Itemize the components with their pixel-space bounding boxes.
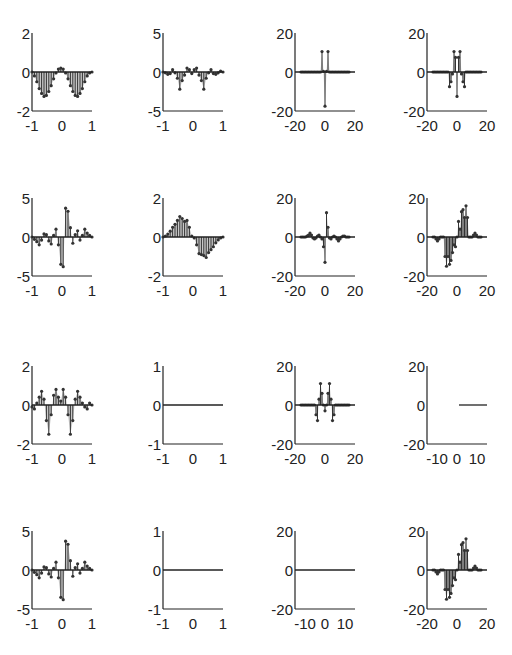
stem-marker — [451, 72, 454, 75]
x-tick-label: -20 — [416, 117, 438, 134]
subplot-r1c3: -20020-20020 — [271, 25, 363, 134]
subplot-r4c3: -20020-10010 — [271, 523, 355, 632]
x-tick-label: -10 — [426, 450, 448, 467]
stem-marker — [57, 243, 60, 246]
stem-marker — [40, 572, 43, 575]
stem-marker — [454, 245, 457, 248]
stem-marker — [448, 263, 451, 266]
y-tick-label: 5 — [22, 523, 30, 540]
stem-marker — [76, 95, 79, 98]
y-tick-label: 0 — [22, 562, 30, 579]
stem-marker — [50, 84, 53, 87]
stem-marker — [86, 565, 89, 568]
stem-marker — [35, 80, 38, 83]
stem-marker — [449, 80, 452, 83]
stem-marker — [71, 575, 74, 578]
stem-marker — [47, 239, 50, 242]
stem-marker — [33, 407, 36, 410]
stem-marker — [45, 419, 48, 422]
stem-marker — [326, 50, 329, 53]
y-tick-label: 0 — [153, 397, 161, 414]
stem-marker — [86, 74, 89, 77]
subplot-r4c2: -101-101 — [148, 523, 228, 632]
subplot-r2c3: -20020-20020 — [271, 190, 363, 299]
stem-marker — [86, 407, 89, 410]
stem-marker — [33, 74, 36, 77]
stem-marker — [166, 232, 169, 235]
x-tick-label: 1 — [88, 282, 96, 299]
stem-marker — [45, 94, 48, 97]
y-tick-label: 20 — [276, 358, 293, 375]
stem-marker — [461, 208, 464, 211]
y-tick-label: 20 — [408, 358, 425, 375]
stem-marker — [86, 232, 89, 235]
stem-marker — [40, 390, 43, 393]
x-tick-label: 1 — [219, 615, 227, 632]
stem-fill — [32, 389, 92, 434]
stem-marker — [66, 77, 69, 80]
stem-marker — [461, 541, 464, 544]
stem-marker — [54, 561, 57, 564]
stem-marker — [64, 540, 67, 543]
y-tick-label: 0 — [22, 64, 30, 81]
subplot-r3c2: -101-101 — [148, 358, 228, 467]
x-tick-label: 1 — [88, 450, 96, 467]
stem-marker — [66, 210, 69, 213]
x-tick-label: 1 — [88, 117, 96, 134]
stem-marker — [71, 90, 74, 93]
stem-marker — [463, 85, 466, 88]
stem-marker — [35, 401, 38, 404]
stem-marker — [320, 50, 323, 53]
stem-marker — [38, 396, 41, 399]
y-tick-label: 20 — [408, 190, 425, 207]
stem-marker — [331, 419, 334, 422]
y-tick-label: 0 — [285, 64, 293, 81]
stem-marker — [62, 265, 65, 268]
stem-marker — [323, 105, 326, 108]
y-tick-label: 0 — [22, 229, 30, 246]
stem-fill — [301, 384, 349, 421]
x-tick-label: -1 — [156, 117, 169, 134]
stem-marker — [212, 245, 215, 248]
stem-marker — [69, 84, 72, 87]
stem-marker — [40, 239, 43, 242]
x-tick-label: 0 — [189, 117, 197, 134]
stem-marker — [178, 88, 181, 91]
y-tick-label: 0 — [417, 562, 425, 579]
stem-marker — [181, 217, 184, 220]
stem-marker — [209, 248, 212, 251]
x-tick-label: 0 — [321, 450, 329, 467]
stem-marker — [57, 396, 60, 399]
stem-marker — [38, 576, 41, 579]
x-tick-label: 20 — [347, 450, 364, 467]
y-tick-label: 20 — [276, 190, 293, 207]
x-tick-label: -1 — [25, 117, 38, 134]
stem-marker — [185, 219, 188, 222]
stem-marker — [202, 88, 205, 91]
y-tick-label: 0 — [22, 397, 30, 414]
stem-marker — [457, 553, 460, 556]
stem-marker — [74, 233, 77, 236]
stem-marker — [35, 240, 38, 243]
x-tick-label: 0 — [453, 282, 461, 299]
stem-marker — [197, 74, 200, 77]
stem-marker — [57, 576, 60, 579]
stem-marker — [64, 396, 67, 399]
x-tick-label: -1 — [156, 450, 169, 467]
x-tick-label: 20 — [479, 615, 496, 632]
stem-marker — [200, 79, 203, 82]
stem-marker — [466, 216, 469, 219]
x-tick-label: -1 — [25, 282, 38, 299]
stem-marker — [66, 413, 69, 416]
stem-marker — [173, 223, 176, 226]
stem-marker — [188, 226, 191, 229]
x-tick-label: 10 — [469, 450, 486, 467]
x-tick-label: 0 — [189, 450, 197, 467]
stem-marker — [83, 80, 86, 83]
stem-marker — [171, 68, 174, 71]
x-tick-label: 0 — [189, 282, 197, 299]
stem-marker — [78, 396, 81, 399]
x-tick-label: -1 — [156, 615, 169, 632]
subplot-r2c4: -20020-20020 — [403, 190, 495, 299]
stem-marker — [62, 67, 65, 70]
